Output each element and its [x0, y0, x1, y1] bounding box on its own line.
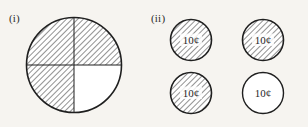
coin-top-right: 10¢ — [243, 20, 284, 61]
part-ii-coin-group: 10¢ 10¢ 10¢ 10¢ — [171, 20, 284, 114]
coin-bottom-right: 10¢ — [243, 73, 284, 114]
figure-drawing: 10¢ 10¢ 10¢ 10¢ — [0, 0, 308, 127]
coin-top-right-value: 10¢ — [255, 34, 272, 46]
coin-top-left: 10¢ — [171, 20, 212, 61]
figure-root: (i) (ii) — [0, 0, 308, 127]
coin-bottom-left: 10¢ — [171, 73, 212, 114]
part-i-circle-quarters — [27, 18, 122, 113]
coin-bottom-left-value: 10¢ — [183, 87, 200, 99]
coin-bottom-right-value: 10¢ — [255, 87, 272, 99]
coin-top-left-value: 10¢ — [183, 34, 200, 46]
